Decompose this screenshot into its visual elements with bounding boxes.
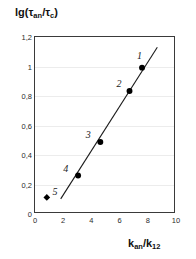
plot-area: 00,20,40,60,811,2 0246810 12345 (34, 36, 175, 213)
y-tick-label: 0,6 (22, 121, 32, 130)
x-tick-label: 6 (118, 216, 122, 225)
y-tick-label: 0 (28, 210, 32, 219)
data-point-marker (97, 139, 103, 145)
y-tick-label: 1 (28, 62, 32, 71)
x-axis-label-sub-an: an (134, 242, 143, 251)
chart-figure: lg(τan/τc) kan/k12 00,20,40,60,811,2 024… (0, 0, 196, 259)
x-axis-label: kan/k12 (128, 237, 160, 249)
x-axis-label-mid: /k (143, 237, 152, 249)
data-point-label: 2 (116, 77, 121, 88)
y-axis-label: lg(τan/τc) (15, 6, 58, 18)
y-axis-label-sub-an: an (33, 11, 42, 20)
x-axis-label-sub-12: 12 (152, 242, 160, 251)
data-markers (43, 65, 145, 201)
data-point-label: 4 (63, 163, 68, 174)
x-tick-label: 0 (33, 216, 37, 225)
data-point-label: 1 (137, 49, 142, 60)
x-tick-label: 10 (172, 216, 180, 225)
data-point-marker (127, 88, 133, 94)
y-axis-label-sub-c: c (50, 11, 54, 20)
y-tick-label: 0,4 (22, 151, 32, 160)
data-point-marker (75, 173, 81, 179)
y-axis-label-end: ) (54, 6, 58, 18)
x-tick-label: 2 (61, 216, 65, 225)
y-tick-label: 0,8 (22, 92, 32, 101)
y-tick-label: 1,2 (22, 33, 32, 42)
data-point-marker (43, 194, 50, 201)
y-tick-label: 0,2 (22, 180, 32, 189)
data-point-label: 5 (52, 186, 57, 197)
data-point-label: 3 (86, 129, 91, 140)
data-point-marker (139, 65, 145, 71)
x-tick-label: 4 (89, 216, 93, 225)
y-axis-label-main: lg(τ (15, 6, 33, 18)
y-axis-label-mid: /τ (42, 6, 50, 18)
x-tick-label: 8 (146, 216, 150, 225)
